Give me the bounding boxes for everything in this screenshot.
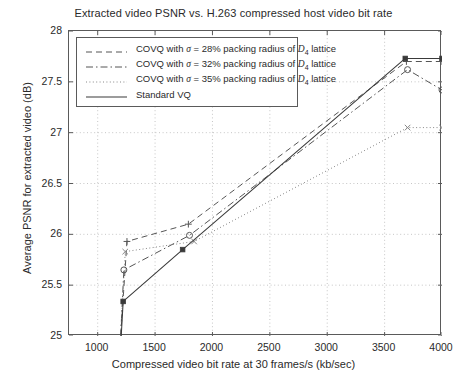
x-tick-label: 1500 [142, 341, 165, 353]
legend-item-3[interactable]: Standard VQ [77, 87, 297, 102]
data-point-circle [187, 232, 193, 238]
x-tick-label: 2000 [200, 341, 223, 353]
y-tick-label: 25 [22, 329, 62, 341]
legend-line-sample [84, 89, 129, 101]
x-tick-label: 3000 [315, 341, 338, 353]
figure: Extracted video PSNR vs. H.263 compresse… [0, 0, 467, 385]
data-point-plus [124, 238, 131, 245]
y-tick-label: 28 [22, 24, 62, 36]
data-point-square [403, 56, 408, 61]
chart-title: Extracted video PSNR vs. H.263 compresse… [0, 7, 467, 19]
legend-item-label: Standard VQ [136, 89, 191, 100]
x-axis-label: Compressed video bit rate at 30 frames/s… [0, 358, 467, 370]
y-axis-label: Average PSNR for extracted video (dB) [21, 53, 33, 303]
legend-line-sample [84, 74, 129, 86]
data-point-square [180, 247, 185, 252]
legend-item-label: COVQ with σ = 32% packing radius of D4 l… [136, 58, 336, 71]
x-tick-label: 4000 [429, 341, 452, 353]
legend-item-1[interactable]: COVQ with σ = 32% packing radius of D4 l… [77, 57, 297, 72]
legend-item-label: COVQ with σ = 28% packing radius of D4 l… [136, 43, 336, 56]
legend: COVQ with σ = 28% packing radius of D4 l… [76, 37, 298, 107]
data-point-square [440, 56, 442, 61]
legend-line-sample [84, 44, 129, 56]
series-2 [121, 125, 442, 336]
data-point-circle [405, 67, 411, 73]
x-tick-label: 3500 [372, 341, 395, 353]
series-1 [121, 67, 442, 336]
x-tick-label: 1000 [85, 341, 108, 353]
legend-line-sample [84, 59, 129, 71]
x-tick-label: 2500 [257, 341, 280, 353]
legend-item-2[interactable]: COVQ with σ = 35% packing radius of D4 l… [77, 72, 297, 87]
data-point-square [121, 299, 126, 304]
legend-item-label: COVQ with σ = 35% packing radius of D4 l… [136, 73, 336, 86]
legend-item-0[interactable]: COVQ with σ = 28% packing radius of D4 l… [77, 42, 297, 57]
